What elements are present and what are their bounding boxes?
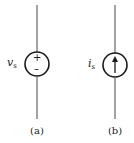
current-subscript: s xyxy=(92,63,96,71)
circuit-diagram xyxy=(0,0,134,143)
caption-b: (b) xyxy=(108,126,122,136)
voltage-label: vs xyxy=(7,57,17,70)
plus-sign: + xyxy=(33,53,41,63)
current-label: is xyxy=(88,58,95,71)
voltage-subscript: s xyxy=(13,62,17,70)
current-source xyxy=(103,5,127,119)
minus-sign: – xyxy=(34,64,39,74)
caption-a: (a) xyxy=(30,126,44,136)
